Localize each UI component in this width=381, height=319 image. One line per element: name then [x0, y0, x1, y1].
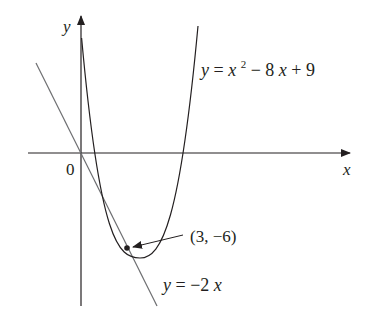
diagram-canvas: y x 0 y = x 2 − 8 x + 9 (3, −6) y = −2 x: [0, 0, 381, 319]
tangency-point: [124, 245, 130, 251]
tangent-line: [36, 63, 157, 306]
y-axis-label: y: [61, 17, 71, 36]
parabola-curve: [82, 26, 198, 258]
origin-label: 0: [66, 160, 75, 179]
x-axis-label: x: [342, 160, 351, 179]
point-label: (3, −6): [190, 227, 236, 246]
tangent-equation-label: y = −2 x: [161, 275, 222, 295]
parabola-equation-label: y = x 2 − 8 x + 9: [199, 52, 315, 80]
